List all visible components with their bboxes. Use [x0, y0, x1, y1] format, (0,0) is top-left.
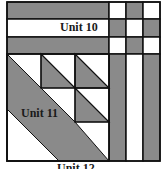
label-unit-11: Unit 11	[21, 106, 58, 121]
unit12-strip-2	[126, 54, 143, 161]
unit10-bottom-strip	[7, 37, 109, 54]
unit10-top-strip	[7, 2, 109, 19]
label-unit-10: Unit 10	[60, 20, 98, 35]
label-unit-12: Unit 12	[57, 161, 95, 169]
unit12-strip-3	[143, 54, 160, 161]
unit12-strip-1	[109, 54, 126, 161]
